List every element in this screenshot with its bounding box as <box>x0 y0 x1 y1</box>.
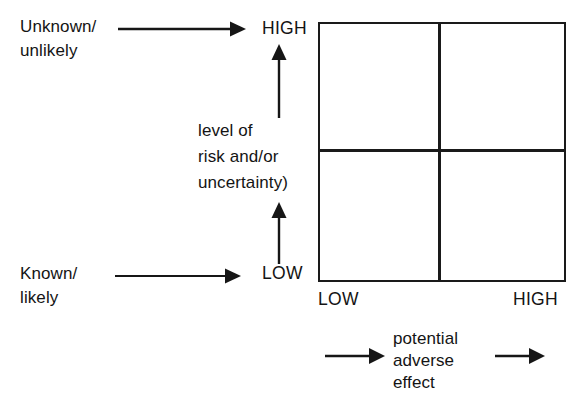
matrix-cell-bottom-left <box>321 153 437 279</box>
matrix-cell-top-left <box>321 25 437 148</box>
vertical-axis-label-line1: level of <box>198 119 253 143</box>
risk-matrix-diagram: Unknown/ unlikely HIGH level of risk and… <box>0 0 586 409</box>
horizontal-axis-low-label: LOW <box>318 288 359 310</box>
vertical-axis-low-label: LOW <box>262 262 303 284</box>
horizontal-axis-label-line1: potential <box>393 327 458 351</box>
vertical-axis-high-descriptor-line2: unlikely <box>20 39 78 63</box>
vertical-axis-low-descriptor-line2: likely <box>20 286 58 310</box>
vertical-axis-label-line3: uncertainty) <box>198 171 288 195</box>
vertical-axis-lower-arrow-icon <box>268 202 290 264</box>
horizontal-axis-label-line3: effect <box>393 371 435 395</box>
vertical-axis-low-descriptor-line1: Known/ <box>20 262 77 286</box>
matrix-horizontal-divider <box>320 149 564 152</box>
arrow-to-low-label-icon <box>115 265 243 287</box>
matrix-cell-top-right <box>441 25 563 148</box>
horizontal-axis-high-label: HIGH <box>513 288 558 310</box>
horizontal-axis-label-line2: adverse <box>393 349 454 373</box>
vertical-axis-label-line2: risk and/or <box>198 145 278 169</box>
horizontal-axis-left-arrow-icon <box>325 345 387 367</box>
arrow-to-high-label-icon <box>118 18 248 40</box>
vertical-axis-upper-arrow-icon <box>268 44 290 118</box>
vertical-axis-high-descriptor-line1: Unknown/ <box>20 15 96 39</box>
matrix-cell-bottom-right <box>441 153 563 279</box>
horizontal-axis-right-arrow-icon <box>495 345 547 367</box>
vertical-axis-high-label: HIGH <box>262 17 307 39</box>
